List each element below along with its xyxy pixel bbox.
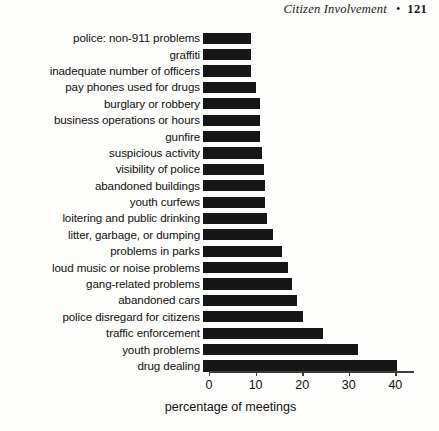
x-tick-label: 30 bbox=[329, 378, 369, 392]
bar-track bbox=[203, 276, 439, 292]
bar-category-label: litter, garbage, or dumping bbox=[0, 229, 203, 241]
bar-row: litter, garbage, or dumping bbox=[0, 227, 439, 243]
bar-row: abandoned cars bbox=[0, 292, 439, 308]
bar-track bbox=[203, 178, 439, 194]
bar-row: suspicious activity bbox=[0, 145, 439, 161]
bar-category-label: police: non-911 problems bbox=[0, 32, 203, 44]
page-number: 121 bbox=[407, 2, 427, 16]
bar-row: gang-related problems bbox=[0, 276, 439, 292]
x-tick bbox=[395, 371, 396, 376]
bar bbox=[203, 311, 303, 322]
x-tick bbox=[349, 371, 350, 376]
bar-track bbox=[203, 46, 439, 62]
bar-track bbox=[203, 210, 439, 226]
bar-track bbox=[203, 243, 439, 259]
bar-track bbox=[203, 30, 439, 46]
bar-track bbox=[203, 161, 439, 177]
bar-track bbox=[203, 79, 439, 95]
bar-category-label: loud music or noise problems bbox=[0, 262, 203, 274]
bar bbox=[203, 131, 260, 142]
bar-track bbox=[203, 96, 439, 112]
bar-category-label: youth problems bbox=[0, 344, 203, 356]
bar bbox=[203, 213, 267, 224]
bar-row: youth problems bbox=[0, 341, 439, 357]
bar bbox=[203, 49, 251, 60]
x-tick bbox=[256, 371, 257, 376]
x-tick bbox=[209, 371, 210, 376]
x-axis-title-text: percentage of meetings bbox=[143, 400, 297, 414]
running-head-title: Citizen Involvement bbox=[284, 2, 387, 16]
bar-rows: police: non-911 problemsgraffitiinadequa… bbox=[0, 30, 439, 374]
bar bbox=[203, 246, 282, 257]
bar bbox=[203, 98, 260, 109]
bar-row: business operations or hours bbox=[0, 112, 439, 128]
bar-track bbox=[203, 341, 439, 357]
bar bbox=[203, 278, 292, 289]
bar-category-label: visibility of police bbox=[0, 163, 203, 175]
bar-row: graffiti bbox=[0, 46, 439, 62]
bar bbox=[203, 229, 273, 240]
bar-category-label: youth curfews bbox=[0, 196, 203, 208]
bar-track bbox=[203, 309, 439, 325]
bar bbox=[203, 180, 265, 191]
x-axis-title: percentage of meetings bbox=[0, 400, 439, 414]
x-tick bbox=[302, 371, 303, 376]
running-head-separator: • bbox=[396, 2, 400, 16]
bar bbox=[203, 197, 265, 208]
bar-category-label: abandoned buildings bbox=[0, 180, 203, 192]
x-tick-label: 0 bbox=[189, 378, 229, 392]
bar-row: youth curfews bbox=[0, 194, 439, 210]
bar-track bbox=[203, 63, 439, 79]
bar-track bbox=[203, 112, 439, 128]
bar-row: police: non-911 problems bbox=[0, 30, 439, 46]
bar-category-label: suspicious activity bbox=[0, 147, 203, 159]
bar bbox=[203, 344, 358, 355]
bar bbox=[203, 262, 288, 273]
bar-row: visibility of police bbox=[0, 161, 439, 177]
bar-category-label: pay phones used for drugs bbox=[0, 81, 203, 93]
bar-category-label: problems in parks bbox=[0, 245, 203, 257]
bar-row: gunfire bbox=[0, 128, 439, 144]
bar bbox=[203, 65, 251, 76]
bar-category-label: gang-related problems bbox=[0, 278, 203, 290]
bar-row: inadequate number of officers bbox=[0, 63, 439, 79]
bar-category-label: burglary or robbery bbox=[0, 98, 203, 110]
bar bbox=[203, 147, 262, 158]
bar-row: police disregard for citizens bbox=[0, 309, 439, 325]
bar bbox=[203, 82, 256, 93]
bar bbox=[203, 115, 260, 126]
bar bbox=[203, 164, 264, 175]
bar bbox=[203, 360, 397, 371]
bar-category-label: traffic enforcement bbox=[0, 327, 203, 339]
bar-category-label: business operations or hours bbox=[0, 114, 203, 126]
bar-track bbox=[203, 325, 439, 341]
bar-category-label: gunfire bbox=[0, 131, 203, 143]
bar-row: loud music or noise problems bbox=[0, 259, 439, 275]
bar-track bbox=[203, 128, 439, 144]
x-axis-line bbox=[209, 371, 414, 373]
bar bbox=[203, 295, 297, 306]
bar-chart: police: non-911 problemsgraffitiinadequa… bbox=[0, 30, 439, 380]
bar-row: abandoned buildings bbox=[0, 178, 439, 194]
bar-row: problems in parks bbox=[0, 243, 439, 259]
bar-track bbox=[203, 259, 439, 275]
bar-track bbox=[203, 194, 439, 210]
bar-category-label: graffiti bbox=[0, 49, 203, 61]
bar-category-label: abandoned cars bbox=[0, 294, 203, 306]
bar-row: burglary or robbery bbox=[0, 96, 439, 112]
bar-track bbox=[203, 292, 439, 308]
bar-category-label: inadequate number of officers bbox=[0, 65, 203, 77]
bar-row: loitering and public drinking bbox=[0, 210, 439, 226]
bar-category-label: police disregard for citizens bbox=[0, 311, 203, 323]
bar-track bbox=[203, 145, 439, 161]
bar-category-label: loitering and public drinking bbox=[0, 212, 203, 224]
x-tick-label: 20 bbox=[282, 378, 322, 392]
bar-row: traffic enforcement bbox=[0, 325, 439, 341]
bar bbox=[203, 328, 323, 339]
running-head: Citizen Involvement•121 bbox=[284, 2, 427, 17]
bar-category-label: drug dealing bbox=[0, 360, 203, 372]
bar bbox=[203, 33, 251, 44]
bar-row: pay phones used for drugs bbox=[0, 79, 439, 95]
bar-track bbox=[203, 227, 439, 243]
x-tick-label: 10 bbox=[236, 378, 276, 392]
